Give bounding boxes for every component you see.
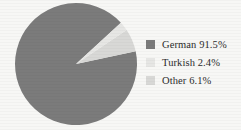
legend-item-turkish: Turkish 2.4% xyxy=(146,56,241,69)
legend-label-turkish: Turkish 2.4% xyxy=(162,57,220,69)
chart-legend: German 91.5% Turkish 2.4% Other 6.1% xyxy=(146,38,241,87)
legend-item-other: Other 6.1% xyxy=(146,74,241,87)
legend-swatch-turkish xyxy=(146,58,155,67)
legend-swatch-other xyxy=(146,76,155,85)
pie-chart-figure: German 91.5% Turkish 2.4% Other 6.1% xyxy=(0,0,241,130)
legend-swatch-german xyxy=(146,40,155,49)
legend-label-other: Other 6.1% xyxy=(162,75,211,87)
legend-label-german: German 91.5% xyxy=(162,39,227,51)
pie-slices xyxy=(15,3,137,125)
legend-item-german: German 91.5% xyxy=(146,38,241,51)
pie-chart-graphic xyxy=(0,0,160,130)
pie-slice-german xyxy=(15,3,137,125)
